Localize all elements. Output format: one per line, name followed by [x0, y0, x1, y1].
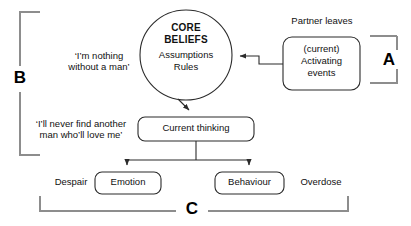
overdose-label: Overdose — [292, 177, 350, 188]
behaviour-label: Behaviour — [215, 177, 284, 188]
connector-events-to-beliefs — [240, 56, 283, 64]
core-beliefs-sub-line2: Rules — [150, 62, 222, 73]
core-beliefs-sub-line1: Assumptions — [150, 50, 222, 61]
partner-leaves-label: Partner leaves — [283, 16, 361, 27]
bracket-a-letter: A — [380, 50, 398, 70]
bracket-b-letter: B — [11, 68, 29, 88]
current-thinking-label: Current thinking — [138, 123, 254, 134]
activating-events-line2: Activating — [286, 56, 357, 67]
diagram-canvas: CORE BELIEFS Assumptions Rules Partner l… — [0, 0, 411, 226]
activating-events-line3: events — [286, 68, 357, 79]
bracket-c-letter: C — [183, 199, 201, 219]
core-beliefs-title-line1: CORE — [158, 22, 214, 34]
connector-beliefs-to-thinking — [178, 99, 189, 110]
core-beliefs-title-line2: BELIEFS — [158, 34, 214, 46]
activating-events-line1: (current) — [286, 44, 357, 55]
emotion-label: Emotion — [95, 177, 161, 188]
thinking-quote-line2: man who’ll love me’ — [26, 130, 136, 141]
belief-quote-line2: without a man’ — [58, 62, 140, 73]
bracket-c-right-shape — [208, 196, 348, 211]
bracket-c-left-shape — [40, 196, 176, 211]
despair-label: Despair — [48, 177, 94, 188]
